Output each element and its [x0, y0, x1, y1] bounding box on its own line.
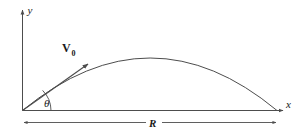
launch-angle-label: θ — [44, 97, 50, 109]
initial-velocity-vector-arrow — [23, 64, 89, 111]
velocity-vector-label: V — [62, 41, 71, 55]
range-label: R — [148, 117, 156, 129]
x-axis-label: x — [285, 98, 291, 110]
y-axis-label: y — [27, 4, 33, 16]
figure-canvas: y x V 0 θ R — [0, 0, 302, 138]
projectile-motion-figure: y x V 0 θ R — [0, 0, 302, 138]
trajectory-curve — [23, 58, 278, 111]
velocity-vector-subscript: 0 — [72, 49, 76, 58]
